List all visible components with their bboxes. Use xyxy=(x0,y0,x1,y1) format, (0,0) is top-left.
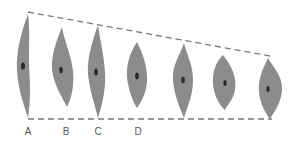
cell-a xyxy=(17,14,30,118)
label-b: B xyxy=(60,126,72,137)
nucleus-icon xyxy=(181,77,185,83)
label-a: A xyxy=(22,126,34,137)
cell-e xyxy=(173,43,193,118)
cell-f xyxy=(213,55,236,110)
label-c: C xyxy=(92,126,104,137)
nucleus-icon xyxy=(59,67,63,73)
nucleus-icon xyxy=(135,73,139,80)
cell-c xyxy=(88,25,105,118)
nucleus-icon xyxy=(94,69,98,76)
cell-d xyxy=(127,42,147,108)
label-d: D xyxy=(132,126,144,137)
cell-g xyxy=(259,58,282,119)
nucleus-icon xyxy=(21,63,25,70)
cell-b xyxy=(52,27,74,107)
nucleus-icon xyxy=(266,86,269,92)
cell-shape-diagram xyxy=(0,0,296,145)
nucleus-icon xyxy=(223,80,226,86)
